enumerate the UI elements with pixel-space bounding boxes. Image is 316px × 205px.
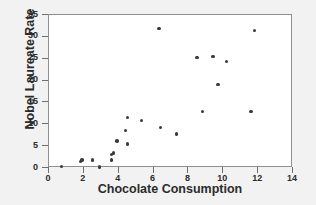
data-point <box>115 139 118 142</box>
data-point <box>216 83 219 86</box>
data-point <box>98 165 101 168</box>
x-tick-label: 8 <box>177 174 197 183</box>
data-point <box>253 29 256 32</box>
plot-area <box>48 14 292 167</box>
data-point <box>211 55 214 58</box>
x-tick-label: 2 <box>73 174 93 183</box>
data-point <box>225 60 228 63</box>
data-point <box>126 116 129 119</box>
data-point <box>124 129 127 132</box>
data-point <box>195 56 198 59</box>
data-point <box>175 132 178 135</box>
data-point <box>159 126 162 129</box>
data-point <box>110 158 113 161</box>
x-tick-label: 10 <box>212 174 232 183</box>
data-point <box>157 27 160 30</box>
data-point <box>140 119 143 122</box>
x-tick-label: 14 <box>282 174 302 183</box>
y-tick-label: 15 <box>0 97 38 106</box>
data-point <box>91 158 94 161</box>
x-axis-title: Chocolate Consumption <box>48 182 292 196</box>
y-tick-label: 35 <box>0 10 38 19</box>
data-point <box>112 151 115 154</box>
x-tick-label: 0 <box>38 174 58 183</box>
y-tick-label: 0 <box>0 163 38 172</box>
y-tick-label: 25 <box>0 53 38 62</box>
data-point <box>201 110 204 113</box>
y-tick-label: 10 <box>0 119 38 128</box>
chart-figure: Nobel Laureate Rate Chocolate Consumptio… <box>0 0 316 205</box>
data-point <box>126 142 129 145</box>
x-tick-label: 4 <box>108 174 128 183</box>
data-point <box>80 158 83 161</box>
y-tick-label: 20 <box>0 75 38 84</box>
y-tick-label: 30 <box>0 31 38 40</box>
data-point <box>60 165 63 168</box>
x-tick-label: 6 <box>143 174 163 183</box>
x-tick-label: 12 <box>247 174 267 183</box>
y-tick-label: 5 <box>0 141 38 150</box>
data-point <box>249 110 252 113</box>
